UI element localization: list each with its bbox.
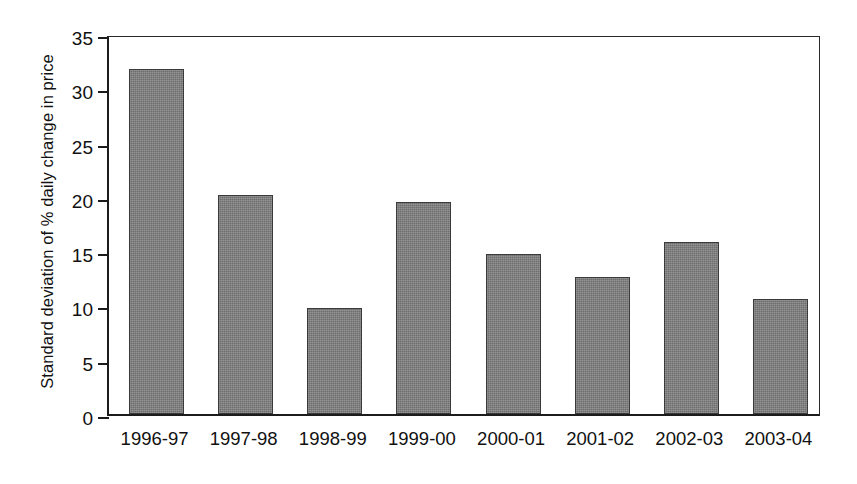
x-axis-tick-label: 2000-01 [467, 428, 556, 450]
bar [396, 202, 451, 414]
bar [307, 308, 362, 414]
y-axis-tick-label: 30 [72, 82, 93, 104]
y-axis-title: Standard deviation of % daily change in … [38, 22, 57, 422]
x-axis-tick-label: 2003-04 [734, 428, 823, 450]
y-axis-tick: 20 [98, 200, 109, 202]
bar [664, 242, 719, 414]
x-axis-tick-label: 1996-97 [110, 428, 199, 450]
y-axis-tick: 30 [98, 91, 109, 93]
y-axis-tick-label: 15 [72, 245, 93, 267]
bar [218, 195, 273, 414]
y-axis-tick: 35 [98, 37, 109, 39]
x-axis-tick-label: 2001-02 [556, 428, 645, 450]
y-axis-tick: 0 [98, 417, 109, 419]
y-axis-tick: 15 [98, 254, 109, 256]
x-axis-tick-label: 2002-03 [645, 428, 734, 450]
y-axis-tick-label: 5 [82, 354, 93, 376]
bar [753, 299, 808, 414]
x-axis-tick-label: 1998-99 [288, 428, 377, 450]
y-axis-tick-label: 35 [72, 28, 93, 50]
y-axis-tick: 10 [98, 308, 109, 310]
plot-area: 05101520253035 [107, 36, 820, 416]
bar [575, 277, 630, 414]
y-axis-tick-label: 20 [72, 191, 93, 213]
y-axis-tick: 25 [98, 146, 109, 148]
bar-chart-figure: Standard deviation of % daily change in … [0, 0, 857, 484]
bar [486, 254, 541, 414]
y-axis-tick-label: 10 [72, 299, 93, 321]
y-axis-tick-label: 0 [82, 408, 93, 430]
y-axis-tick-label: 25 [72, 137, 93, 159]
x-axis-tick-label: 1997-98 [199, 428, 288, 450]
bar [129, 69, 184, 414]
y-axis-tick: 5 [98, 363, 109, 365]
x-axis-tick-label: 1999-00 [377, 428, 466, 450]
